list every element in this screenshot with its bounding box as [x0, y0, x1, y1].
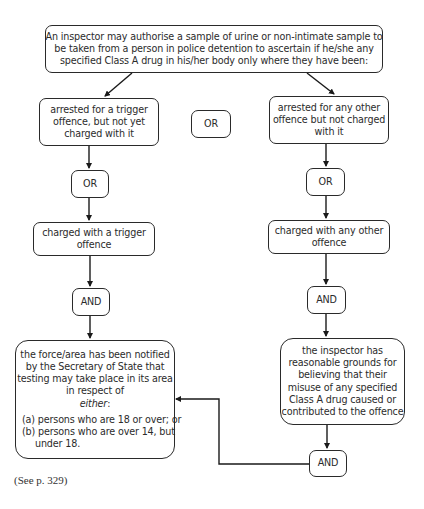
right-arrested-text: with it: [315, 126, 344, 138]
right-arrested-box: arrested for any other offence but not c…: [269, 96, 389, 144]
right-condition-text: believing that their: [298, 369, 387, 381]
left-charged-text: charged with a trigger: [42, 227, 146, 239]
page-reference: (See p. 329): [14, 474, 67, 486]
left-condition-box: the force/area has been notified by the …: [15, 340, 175, 459]
middle-or-label: OR: [204, 118, 218, 130]
top-text-line: specified Class A drug in his/her body o…: [60, 55, 368, 67]
left-arrested-text: arrested for a trigger: [50, 104, 147, 116]
right-charged-text: offence: [312, 237, 347, 249]
left-or-gate: OR: [71, 170, 109, 198]
right-and-gate: AND: [307, 286, 346, 314]
top-condition-box: An inspector may authorise a sample of u…: [45, 25, 383, 73]
right-or-label: OR: [319, 176, 333, 188]
right-charged-text: charged with any other: [275, 225, 384, 237]
right-and-label: AND: [316, 294, 337, 306]
right-arrested-text: arrested for any other: [278, 102, 380, 114]
right-condition-text: the inspector has: [302, 345, 383, 357]
right-condition-box: the inspector has reasonable grounds for…: [280, 338, 405, 425]
final-and-gate: AND: [309, 450, 347, 477]
middle-or-gate: OR: [191, 110, 231, 138]
left-and-gate: AND: [72, 288, 110, 316]
left-charged-box: charged with a trigger offence: [33, 222, 155, 256]
right-condition-text: reasonable grounds for: [289, 357, 397, 369]
age-options-list: (a) persons who are 18 or over; or (b) p…: [20, 414, 181, 451]
left-charged-text: offence: [77, 239, 112, 251]
left-condition-text: the force/area has been notified: [20, 349, 169, 361]
left-arrested-text: charged with it: [64, 128, 134, 140]
age-option-b-cont: under 18.: [22, 438, 181, 450]
left-condition-text: testing may take place in its area: [17, 373, 173, 385]
arrow-top-to-left: [105, 73, 132, 96]
either-suffix: :: [107, 398, 110, 409]
left-condition-text: in respect of: [66, 385, 124, 397]
arrow-top-to-right: [307, 73, 334, 94]
right-charged-box: charged with any other offence: [268, 220, 390, 254]
left-and-label: AND: [81, 296, 102, 308]
right-condition-text: contributed to the offence: [282, 406, 404, 418]
final-and-label: AND: [318, 457, 339, 469]
age-option-a: (a) persons who are 18 or over; or: [22, 414, 181, 426]
left-or-label: OR: [83, 178, 97, 190]
left-arrested-text: offence, but not yet: [53, 116, 145, 128]
either-emphasis: either: [80, 398, 107, 409]
left-arrested-box: arrested for a trigger offence, but not …: [39, 98, 159, 146]
left-condition-emphasis: either:: [80, 398, 110, 410]
top-text-line: be taken from a person in police detenti…: [54, 43, 373, 55]
right-or-gate: OR: [306, 168, 345, 196]
right-arrested-text: offence but not charged: [273, 114, 385, 126]
top-text-line: An inspector may authorise a sample of u…: [46, 31, 383, 43]
right-condition-text: misuse of any specified: [288, 382, 398, 394]
right-condition-text: Class A drug caused or: [289, 394, 396, 406]
left-condition-text: by the Secretary of State that: [26, 361, 165, 373]
age-option-b: (b) persons who are over 14, but: [22, 426, 181, 438]
